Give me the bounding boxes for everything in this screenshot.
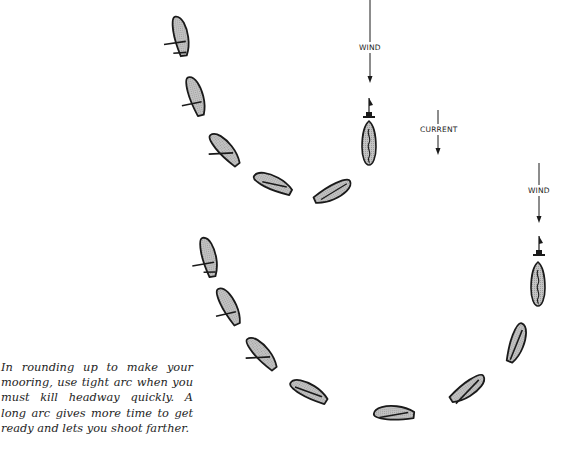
mooring-right (531, 236, 545, 306)
boat-long-2 (206, 285, 243, 331)
boat-long-6 (447, 372, 488, 405)
moored-boat-right (531, 262, 545, 306)
boat-long-7 (503, 322, 531, 364)
boat-tight-4 (252, 167, 294, 198)
boat-long-4 (288, 374, 329, 407)
current-label: CURRENT (420, 124, 457, 135)
buoy-icon (363, 98, 375, 118)
wind-label-right: WIND (528, 185, 550, 196)
moored-boat-top (362, 121, 376, 165)
boat-long-3 (237, 333, 280, 379)
boat-tight-1 (160, 15, 190, 58)
boat-long-5 (373, 404, 414, 422)
boat-tight-3 (200, 129, 243, 175)
boat-tight-2 (176, 75, 208, 119)
buoy-icon (533, 236, 545, 256)
mooring-top (362, 98, 376, 165)
wind-label-top: WIND (359, 42, 381, 53)
boat-tight-5 (312, 177, 354, 206)
boat-long-1 (188, 236, 220, 280)
long-arc (188, 236, 531, 422)
tight-arc (160, 15, 354, 206)
diagram-caption: In rounding up to make your mooring, use… (1, 360, 193, 436)
